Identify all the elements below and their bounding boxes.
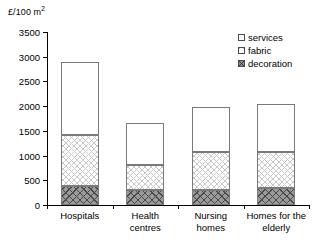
y-axis-tick-mark (43, 32, 47, 33)
bar-segment-fabric[interactable] (257, 152, 295, 188)
y-axis-line (47, 32, 48, 205)
bar-segment-services[interactable] (61, 62, 99, 135)
y-axis-tick-label: 500 (24, 175, 40, 186)
y-axis-tick-label: 1000 (19, 150, 40, 161)
x-axis-category-label: Nursing homes (178, 210, 244, 233)
y-axis-unit-caption: £/100 m2 (8, 7, 45, 17)
bar-segment-decoration[interactable] (192, 190, 230, 205)
y-axis-unit-text: £/100 m (8, 7, 41, 17)
y-axis-tick-label: 0 (35, 200, 40, 211)
legend-swatch-services (238, 34, 245, 41)
y-axis-tick-mark (43, 180, 47, 181)
legend-item[interactable]: decoration (238, 57, 292, 70)
x-axis-category-label: Homes for the elderly (244, 210, 310, 233)
bar-segment-decoration[interactable] (257, 188, 295, 205)
legend: servicesfabricdecoration (238, 31, 292, 70)
legend-item-label: decoration (248, 58, 292, 69)
bar-segment-fabric[interactable] (192, 152, 230, 190)
legend-item[interactable]: services (238, 31, 292, 44)
legend-item-label: services (248, 32, 283, 43)
y-axis-tick-mark (43, 106, 47, 107)
bar-segment-fabric[interactable] (61, 135, 99, 186)
bar-stack[interactable] (61, 62, 99, 205)
bar-segment-services[interactable] (126, 123, 164, 165)
x-axis-tick-mark (178, 205, 179, 209)
bar-stack[interactable] (126, 123, 164, 205)
x-axis-tick-mark (47, 205, 48, 209)
bar-stack[interactable] (192, 107, 230, 205)
bar-segment-services[interactable] (192, 107, 230, 152)
legend-swatch-fabric (238, 47, 245, 54)
y-axis-tick-label: 2000 (19, 101, 40, 112)
bar-segment-decoration[interactable] (126, 190, 164, 205)
y-axis-unit-superscript: 2 (41, 5, 45, 12)
legend-item-label: fabric (248, 45, 271, 56)
x-axis-tick-mark (309, 205, 310, 209)
y-axis-tick-mark (43, 81, 47, 82)
legend-item[interactable]: fabric (238, 44, 292, 57)
bar-chart: £/100 m2 0500100015002000250030003500 Ho… (0, 0, 323, 247)
x-axis-tick-mark (244, 205, 245, 209)
x-axis-category-label: Hospitals (47, 210, 113, 222)
y-axis-tick-mark (43, 156, 47, 157)
y-axis-tick-label: 1500 (19, 125, 40, 136)
legend-swatch-decoration (238, 60, 245, 67)
y-axis-tick-label: 2500 (19, 76, 40, 87)
y-axis-tick-mark (43, 57, 47, 58)
bar-segment-decoration[interactable] (61, 186, 99, 205)
x-axis-tick-mark (113, 205, 114, 209)
bar-stack[interactable] (257, 104, 295, 205)
y-axis-tick-label: 3000 (19, 51, 40, 62)
y-axis-tick-mark (43, 131, 47, 132)
y-axis-tick-label: 3500 (19, 27, 40, 38)
bar-segment-services[interactable] (257, 104, 295, 152)
x-axis-category-label: Health centres (113, 210, 179, 233)
bar-segment-fabric[interactable] (126, 165, 164, 190)
